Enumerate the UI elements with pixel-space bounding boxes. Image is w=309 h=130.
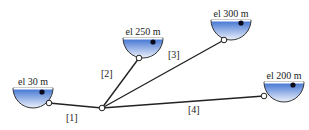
pipe-1	[49, 103, 102, 108]
pipe-network-diagram: el 30 mel 250 mel 300 mel 200 m [1][2][3…	[0, 0, 309, 130]
reservoir-1: el 30 m	[13, 76, 53, 108]
pipe-label-4: [4]	[188, 104, 200, 115]
elevation-label: el 250 m	[126, 26, 161, 37]
elevation-label: el 200 m	[267, 70, 302, 81]
reservoir-bowl	[264, 82, 304, 102]
reservoir-bowl	[211, 20, 251, 40]
reservoir-4: el 200 m	[261, 70, 304, 102]
reservoir-2: el 250 m	[123, 26, 163, 61]
junction-node	[99, 105, 105, 111]
elevation-label: el 30 m	[18, 76, 48, 87]
pipe-labels: [1][2][3][4]	[66, 49, 200, 123]
reservoir-3: el 300 m	[211, 8, 251, 43]
float-marker-icon	[238, 20, 243, 25]
float-marker-icon	[39, 89, 44, 94]
pipe-3	[102, 40, 224, 108]
outlet-node	[46, 100, 52, 106]
pipe-4	[102, 96, 264, 108]
pipe-label-3: [3]	[168, 49, 180, 60]
pipe-label-2: [2]	[101, 68, 113, 79]
outlet-node	[136, 55, 142, 61]
outlet-node	[221, 37, 227, 43]
reservoir-bowl	[123, 38, 163, 58]
outlet-node	[261, 93, 267, 99]
elevation-label: el 300 m	[214, 8, 249, 19]
junction	[99, 105, 105, 111]
reservoirs: el 30 mel 250 mel 300 mel 200 m	[13, 8, 304, 108]
pipe-label-1: [1]	[66, 112, 78, 123]
float-marker-icon	[150, 39, 155, 44]
float-marker-icon	[290, 82, 295, 87]
pipe-2	[102, 58, 139, 108]
